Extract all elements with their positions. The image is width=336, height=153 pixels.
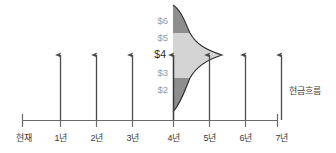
timeline-label-year1: 1년 (54, 131, 67, 144)
cash-flow-axis-label: 현금흐름 (289, 84, 321, 97)
value-label-4: $4 (140, 48, 166, 60)
timeline-label-year4: 4년 (167, 131, 180, 144)
cash-flow-arrows (61, 55, 282, 120)
timeline-label-year2: 2년 (90, 131, 103, 144)
value-label-5: $5 (142, 32, 168, 43)
timeline-label-year7: 7년 (275, 131, 288, 144)
value-label-3: $3 (142, 67, 168, 78)
value-label-2: $2 (142, 84, 168, 95)
value-label-6: $6 (142, 15, 168, 26)
cash-flow-diagram: $6 $5 $4 $3 $2 현재 1년 2년 3년 4년 5년 6년 7년 현… (0, 0, 336, 153)
distribution-upper-tail (173, 5, 190, 33)
timeline-label-year6: 6년 (239, 131, 252, 144)
timeline-label-year5: 5년 (203, 131, 216, 144)
timeline-label-year3: 3년 (126, 131, 139, 144)
timeline-label-present: 현재 (16, 131, 32, 144)
